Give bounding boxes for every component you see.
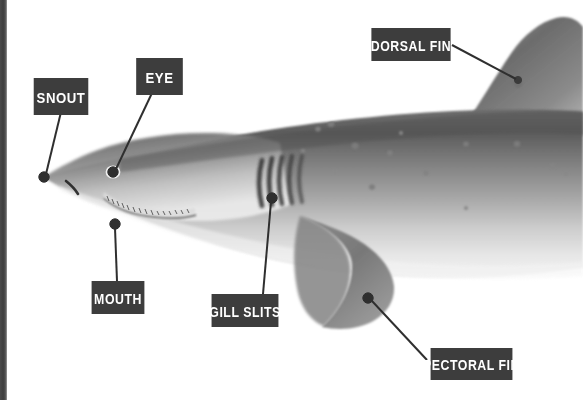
label-mouth-text: MOUTH	[94, 291, 142, 305]
leader-line-pectoral-fin	[363, 293, 427, 360]
label-gill-slits-text: GILL SLITS	[209, 304, 280, 318]
label-eye[interactable]: EYE	[136, 58, 183, 95]
shark-anatomy-diagram: SNOUT EYE DORSAL FIN MOUTH GILL SLITS PE…	[0, 0, 583, 400]
label-dorsal-fin-text: DORSAL FIN	[371, 38, 451, 52]
label-gill-slits[interactable]: GILL SLITS	[212, 294, 279, 327]
label-snout[interactable]: SNOUT	[34, 78, 89, 115]
shark-illustration	[0, 0, 583, 400]
label-eye-text: EYE	[145, 70, 173, 85]
label-mouth[interactable]: MOUTH	[92, 281, 145, 314]
label-dorsal-fin[interactable]: DORSAL FIN	[371, 28, 450, 61]
label-snout-text: SNOUT	[37, 90, 86, 105]
left-edge-strip	[0, 0, 7, 400]
label-pectoral-fin-text: PECTORAL FIN	[423, 358, 520, 372]
leader-line-mouth	[110, 219, 120, 281]
label-pectoral-fin[interactable]: PECTORAL FIN	[431, 348, 513, 380]
